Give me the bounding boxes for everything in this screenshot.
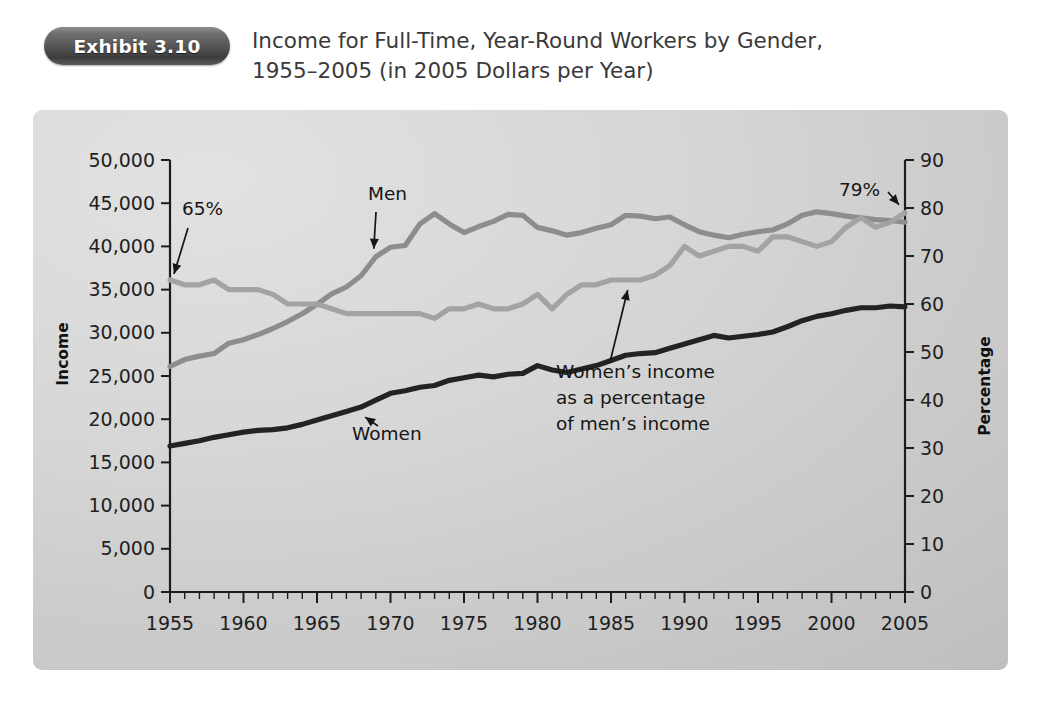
y-tick-label-left: 50,000 xyxy=(89,149,155,171)
x-tick-label: 1985 xyxy=(587,612,635,634)
y-tick-label-right: 40 xyxy=(920,389,944,411)
x-tick-label: 2000 xyxy=(807,612,855,634)
x-tick-label: 1960 xyxy=(219,612,267,634)
x-tick-label: 1990 xyxy=(660,612,708,634)
y-tick-label-right: 10 xyxy=(920,533,944,555)
y-tick-label-left: 30,000 xyxy=(89,321,155,343)
annotation-65-percent: 65% xyxy=(182,198,223,219)
y-tick-label-right: 90 xyxy=(920,149,944,171)
y-tick-label-right: 0 xyxy=(920,581,932,603)
y-axis-title-income: Income xyxy=(54,322,72,385)
annotation-ratio-line-3: of men’s income xyxy=(556,413,710,434)
y-axis-title-percentage: Percentage xyxy=(976,336,994,436)
chart-tick-labels: 05,00010,00015,00020,00025,00030,00035,0… xyxy=(89,149,945,635)
annotation-men-arrow-head xyxy=(370,238,379,248)
annotation-men-label: Men xyxy=(368,183,407,204)
annotation-ratio-arrow xyxy=(610,290,628,362)
y-tick-label-right: 60 xyxy=(920,293,944,315)
x-tick-label: 1955 xyxy=(146,612,194,634)
annotation-ratio-line-1: Women’s income xyxy=(556,361,715,382)
annotation-65-percent-arrow-head xyxy=(173,263,182,274)
y-tick-label-left: 15,000 xyxy=(89,451,155,473)
y-tick-label-left: 20,000 xyxy=(89,408,155,430)
series-line-men xyxy=(170,212,905,367)
y-tick-label-left: 35,000 xyxy=(89,278,155,300)
y-tick-label-left: 10,000 xyxy=(89,494,155,516)
x-tick-label: 2005 xyxy=(881,612,929,634)
annotation-women-label: Women xyxy=(352,423,422,444)
chart-annotations: 65%79%MenWomenWomen’s incomeas a percent… xyxy=(173,179,899,444)
y-tick-label-left: 0 xyxy=(143,581,155,603)
x-tick-label: 1975 xyxy=(440,612,488,634)
y-tick-label-right: 20 xyxy=(920,485,944,507)
y-tick-label-left: 45,000 xyxy=(89,192,155,214)
x-tick-label: 1980 xyxy=(513,612,561,634)
x-tick-label: 1965 xyxy=(293,612,341,634)
y-tick-label-right: 30 xyxy=(920,437,944,459)
y-tick-label-right: 50 xyxy=(920,341,944,363)
exhibit-figure: Exhibit 3.10 Income for Full-Time, Year-… xyxy=(0,0,1040,715)
y-tick-label-right: 80 xyxy=(920,197,944,219)
annotation-ratio-arrow-head xyxy=(621,290,630,301)
y-tick-label-left: 5,000 xyxy=(101,537,155,559)
annotation-ratio-line-2: as a percentage xyxy=(556,387,705,408)
y-tick-label-left: 40,000 xyxy=(89,235,155,257)
annotation-79-percent: 79% xyxy=(839,179,880,200)
chart-container: 05,00010,00015,00020,00025,00030,00035,0… xyxy=(0,0,1040,715)
x-tick-label: 1995 xyxy=(734,612,782,634)
chart-series xyxy=(170,212,905,446)
y-tick-label-right: 70 xyxy=(920,245,944,267)
y-tick-label-left: 25,000 xyxy=(89,365,155,387)
x-tick-label: 1970 xyxy=(366,612,414,634)
line-chart: 05,00010,00015,00020,00025,00030,00035,0… xyxy=(0,0,1040,715)
